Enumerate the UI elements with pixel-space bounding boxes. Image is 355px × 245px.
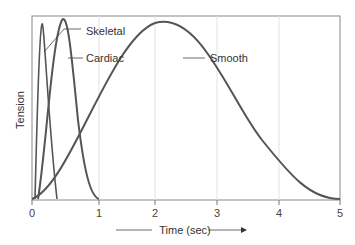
tick-1: 1 xyxy=(96,207,102,219)
smooth-label: Smooth xyxy=(210,52,248,64)
x-ticks xyxy=(32,200,340,205)
cardiac-curve xyxy=(38,19,99,199)
y-axis-label: Tension xyxy=(14,91,26,129)
tick-4: 4 xyxy=(276,207,282,219)
tick-3: 3 xyxy=(214,207,220,219)
chart: 0 1 2 3 4 5 Skeletal Cardiac Smooth Tens… xyxy=(0,0,355,245)
grid-lines xyxy=(99,16,279,200)
tick-5: 5 xyxy=(337,207,343,219)
arrow-right-icon xyxy=(241,227,247,233)
tick-0: 0 xyxy=(29,207,35,219)
tick-2: 2 xyxy=(152,207,158,219)
x-tick-labels: 0 1 2 3 4 5 xyxy=(29,207,343,219)
skeletal-label: Skeletal xyxy=(86,25,125,37)
x-axis-label: Time (sec) xyxy=(159,224,211,236)
plot-frame xyxy=(32,16,340,200)
curves xyxy=(32,19,340,199)
x-axis-label-group: Time (sec) xyxy=(116,224,247,236)
smooth-curve xyxy=(32,22,340,199)
cardiac-label: Cardiac xyxy=(86,52,124,64)
